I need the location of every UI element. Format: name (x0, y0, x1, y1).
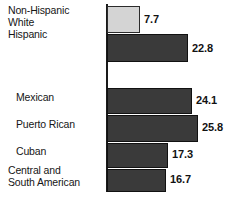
category-label-non-hispanic-white: Non-Hispanic White (8, 5, 104, 28)
value-label-puerto-rican: 25.8 (202, 122, 223, 133)
value-label-non-hispanic-white: 7.7 (144, 14, 159, 25)
category-label-hispanic: Hispanic (8, 29, 104, 41)
bar-central-and-south-american (107, 169, 166, 192)
bar-mexican (107, 88, 192, 114)
bar-puerto-rican (107, 115, 198, 142)
bar-cuban (107, 143, 168, 168)
category-label-mexican: Mexican (16, 92, 108, 104)
value-label-cuban: 17.3 (172, 149, 193, 160)
category-label-central-and-south-american: Central and South American (8, 165, 108, 188)
value-label-central-and-south-american: 16.7 (170, 174, 191, 185)
category-label-cuban: Cuban (16, 146, 108, 158)
value-label-hispanic: 22.8 (192, 43, 213, 54)
bar-non-hispanic-white (107, 6, 140, 33)
value-label-mexican: 24.1 (196, 95, 217, 106)
category-label-puerto-rican: Puerto Rican (16, 119, 108, 131)
bar-hispanic (107, 34, 188, 62)
horizontal-bar-chart: Non-Hispanic White 7.7 Hispanic 22.8 Mex… (0, 0, 240, 198)
